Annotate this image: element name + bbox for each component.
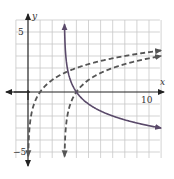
x-axis-label: x: [160, 77, 165, 87]
grid: [16, 20, 161, 158]
y-tick-5: 5: [18, 27, 24, 37]
y-tick-neg5: −5: [13, 147, 27, 157]
log-graph: x y 10 5 −5: [0, 0, 174, 179]
x-tick-10: 10: [141, 95, 153, 105]
y-axis-label: y: [31, 11, 38, 21]
